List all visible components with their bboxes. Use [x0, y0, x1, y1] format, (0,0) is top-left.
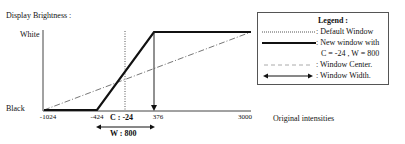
down-arrow-icon: [151, 105, 157, 111]
width-label: W : 800: [110, 129, 137, 138]
legend-title: Legend :: [318, 16, 348, 25]
white-label: White: [20, 30, 40, 39]
x-axis-title: Original intensities: [273, 114, 334, 123]
black-label: Black: [6, 104, 25, 113]
center-label: C : -24: [110, 113, 133, 122]
left-arrowhead-icon: [96, 125, 101, 130]
default-window-line: [44, 32, 251, 110]
tick-lower: -424: [91, 113, 104, 121]
tick-max: 3000: [238, 113, 252, 121]
tick-min: -1024: [40, 113, 56, 121]
right-arrowhead-icon: [150, 125, 155, 130]
y-axis-title: Display Brightness :: [6, 11, 71, 20]
legend: Legend : : Default Window : New window w…: [257, 12, 389, 85]
tick-upper: 376: [153, 113, 164, 121]
